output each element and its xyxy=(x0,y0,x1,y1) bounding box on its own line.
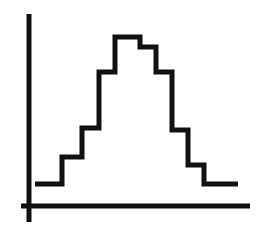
axes-group xyxy=(21,14,250,222)
histogram-canvas xyxy=(0,0,271,231)
series-group xyxy=(35,37,238,184)
histogram-step-outline xyxy=(35,37,238,184)
histogram-figure xyxy=(0,0,271,231)
